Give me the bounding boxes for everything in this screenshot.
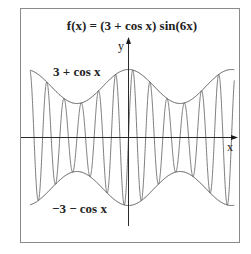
x-axis-label: x	[227, 140, 233, 154]
lower-envelope-label: −3 − cos x	[52, 201, 107, 216]
function-plot: f(x) = (3 + cos x) sin(6x) x y 3 + cos x…	[0, 0, 251, 254]
y-axis-arrow-icon	[126, 37, 131, 44]
plot-title: f(x) = (3 + cos x) sin(6x)	[67, 18, 197, 33]
upper-envelope-label: 3 + cos x	[53, 64, 101, 79]
y-axis-label: y	[118, 39, 124, 53]
